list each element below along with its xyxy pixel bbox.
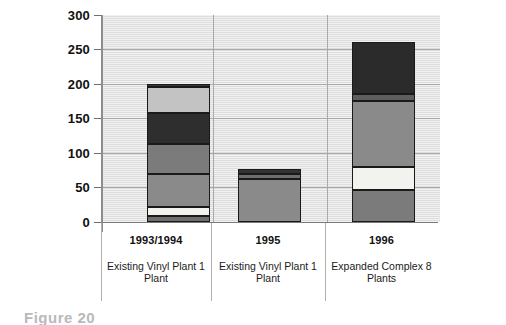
bar-1996-seg-4 <box>352 94 415 100</box>
y-tick-mark-250 <box>94 49 101 50</box>
category-year-2: 1995 <box>256 234 281 246</box>
y-tick-label-50: 50 <box>20 180 90 195</box>
category-year-1: 1993/1994 <box>130 234 183 246</box>
category-column-1993-1994: 1993/1994 Existing Vinyl Plant 1 Plant <box>101 223 211 301</box>
bar-1996-seg-5 <box>352 42 415 94</box>
y-tick-label-250: 250 <box>20 42 90 57</box>
category-description-1: Existing Vinyl Plant 1 Plant <box>101 260 211 284</box>
category-description-2: Existing Vinyl Plant 1 Plant <box>211 260 325 284</box>
y-tick-label-0: 0 <box>20 215 90 230</box>
bar-1993-1994-seg-2 <box>147 207 210 217</box>
y-tick-mark-300 <box>94 15 101 16</box>
category-label-table: 1993/1994 Existing Vinyl Plant 1 Plant 1… <box>101 223 438 301</box>
bar-1993-1994-seg-7 <box>147 84 210 87</box>
y-tick-mark-50 <box>94 187 101 188</box>
bar-1993-1994-seg-5 <box>147 113 210 144</box>
bar-1996[interactable] <box>352 42 415 222</box>
bar-1995-seg-2 <box>238 174 301 180</box>
bar-1995[interactable] <box>238 169 301 222</box>
figure-caption: Figure 20 <box>24 309 95 325</box>
y-tick-mark-0 <box>94 222 101 223</box>
bar-1995-seg-1 <box>238 179 301 222</box>
category-column-1996: 1996 Expanded Complex 8 Plants <box>325 223 438 301</box>
bar-1995-seg-3 <box>238 169 301 174</box>
vgridline-1 <box>213 15 214 222</box>
bar-1993-1994[interactable] <box>147 84 210 222</box>
bar-1996-seg-1 <box>352 190 415 222</box>
bar-1993-1994-seg-4 <box>147 144 210 174</box>
bar-1996-seg-2 <box>352 167 415 190</box>
category-column-1995: 1995 Existing Vinyl Plant 1 Plant <box>211 223 325 301</box>
vgridline-2 <box>327 15 328 222</box>
category-description-3: Expanded Complex 8 Plants <box>327 260 437 284</box>
bar-1993-1994-seg-6 <box>147 87 210 113</box>
y-tick-mark-100 <box>94 153 101 154</box>
y-tick-label-100: 100 <box>20 146 90 161</box>
y-tick-label-300: 300 <box>20 8 90 23</box>
chart-container: 300 250 200 150 100 50 0 <box>0 0 506 325</box>
bar-1996-seg-3 <box>352 101 415 167</box>
y-tick-label-200: 200 <box>20 77 90 92</box>
category-year-3: 1996 <box>369 234 394 246</box>
bar-1993-1994-seg-3 <box>147 174 210 207</box>
y-tick-mark-200 <box>94 84 101 85</box>
y-tick-label-150: 150 <box>20 111 90 126</box>
plot-area <box>101 15 440 222</box>
y-tick-mark-150 <box>94 118 101 119</box>
